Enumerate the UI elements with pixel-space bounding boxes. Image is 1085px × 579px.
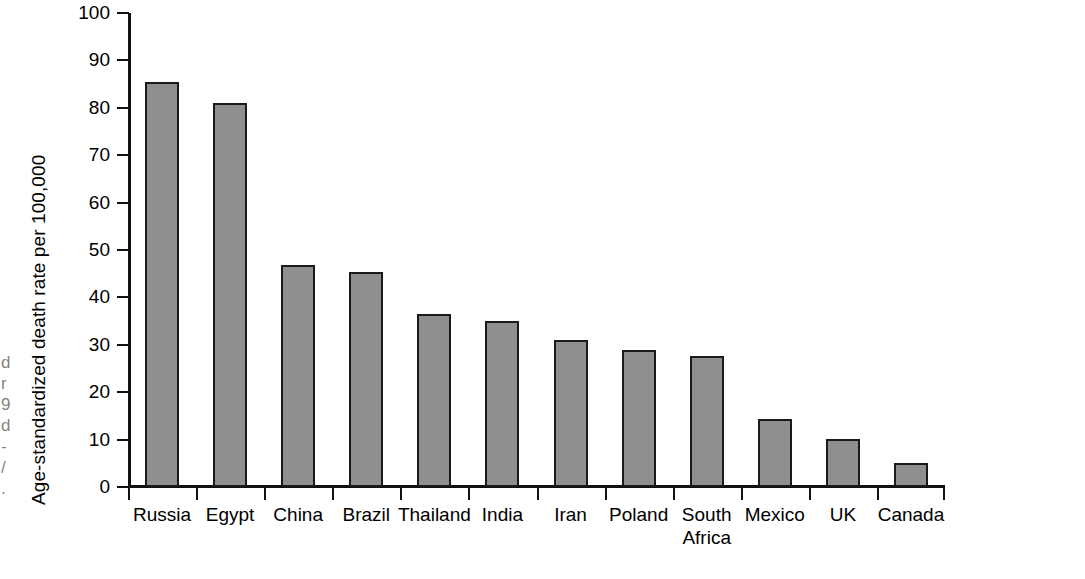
y-tick-label: 80 [54, 98, 110, 117]
bar [894, 463, 928, 487]
x-tick-mark [264, 488, 266, 500]
bar [690, 356, 724, 487]
y-tick-label-wrap: 10 [54, 430, 110, 449]
y-tick-label-wrap: 50 [54, 240, 110, 259]
y-tick-label-wrap: 70 [54, 145, 110, 164]
page-edge-artifact: d r 9 d - / . [1, 352, 19, 552]
y-tick-label: 90 [54, 50, 110, 69]
y-tick-label-wrap: 80 [54, 98, 110, 117]
y-tick-label: 0 [54, 477, 110, 496]
x-tick-mark [128, 488, 130, 500]
x-tick-mark [400, 488, 402, 500]
x-tick-mark [537, 488, 539, 500]
y-tick-label: 70 [54, 145, 110, 164]
y-tick-label: 40 [54, 287, 110, 306]
x-tick-mark [673, 488, 675, 500]
y-tick-label: 20 [54, 382, 110, 401]
chart-figure: d r 9 d - / . Age-standardized death rat… [0, 0, 1085, 579]
y-tick-label-wrap: 20 [54, 382, 110, 401]
y-tick-label-wrap: 90 [54, 50, 110, 69]
x-tick-mark [196, 488, 198, 500]
y-tick-label-wrap: 40 [54, 287, 110, 306]
y-axis-title: Age-standardized death rate per 100,000 [26, 5, 52, 505]
bar [554, 340, 588, 487]
bar [622, 350, 656, 487]
y-tick-label: 10 [54, 430, 110, 449]
x-tick-mark [468, 488, 470, 500]
x-tick-mark [943, 488, 945, 500]
y-tick-label: 60 [54, 193, 110, 212]
x-tick-mark [809, 488, 811, 500]
x-tick-mark [741, 488, 743, 500]
bar [417, 314, 451, 487]
bar [145, 82, 179, 487]
y-tick-label: 100 [54, 3, 110, 22]
bar [349, 272, 383, 487]
y-tick-label-wrap: 100 [54, 3, 110, 22]
bar [758, 419, 792, 487]
bar [485, 321, 519, 487]
bar [281, 265, 315, 487]
bar [826, 439, 860, 487]
x-tick-label: Canada [867, 503, 955, 526]
y-tick-label: 50 [54, 240, 110, 259]
y-tick-label-wrap: 0 [54, 477, 110, 496]
y-tick-label-wrap: 60 [54, 193, 110, 212]
y-tick-label: 30 [54, 335, 110, 354]
bar [213, 103, 247, 487]
x-tick-mark [332, 488, 334, 500]
y-tick-label-wrap: 30 [54, 335, 110, 354]
x-tick-mark [877, 488, 879, 500]
x-tick-mark [605, 488, 607, 500]
plot-area [128, 13, 945, 487]
